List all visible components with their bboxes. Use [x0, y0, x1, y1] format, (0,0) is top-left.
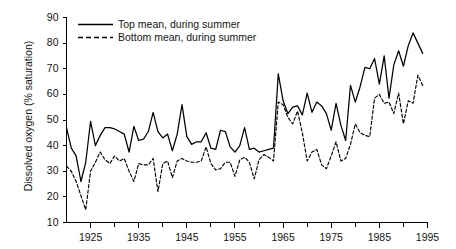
x-tick-label: 1995 — [408, 231, 448, 243]
series-line-bottom-mean — [67, 75, 423, 210]
legend-label-bottom-mean: Bottom mean, during summer — [118, 31, 256, 43]
x-tick-label: 1935 — [119, 231, 159, 243]
x-tick-label: 1945 — [167, 231, 207, 243]
y-tick-label: 70 — [33, 62, 59, 74]
x-tick-label: 1955 — [215, 231, 255, 243]
x-tick-label: 1985 — [359, 231, 399, 243]
y-tick-label: 40 — [33, 139, 59, 151]
y-tick-label: 30 — [33, 164, 59, 176]
x-tick-label: 1975 — [311, 231, 351, 243]
chart-series — [67, 33, 423, 210]
y-tick-label: 80 — [33, 36, 59, 48]
legend-sample-lines — [78, 25, 113, 38]
y-tick-label: 90 — [33, 11, 59, 23]
chart-container: Dissolved oxygen (% saturation) 10203040… — [0, 0, 456, 249]
y-tick-label: 10 — [33, 216, 59, 228]
series-line-top-mean — [67, 33, 423, 182]
y-tick-label: 50 — [33, 113, 59, 125]
y-tick-label: 60 — [33, 87, 59, 99]
x-tick-label: 1925 — [71, 231, 111, 243]
legend-label-top-mean: Top mean, during summer — [118, 18, 240, 30]
y-tick-label: 20 — [33, 190, 59, 202]
x-tick-label: 1965 — [263, 231, 303, 243]
chart-axes — [63, 18, 428, 229]
